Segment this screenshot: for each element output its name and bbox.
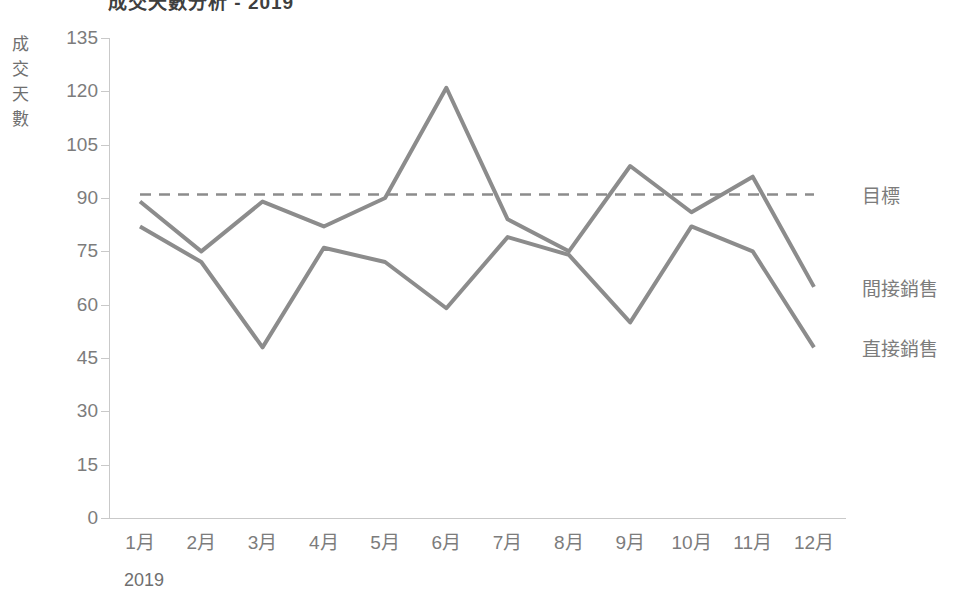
series-label-間接銷售: 間接銷售 <box>862 273 938 300</box>
series-line-直接銷售 <box>140 226 814 347</box>
series-label-直接銷售: 直接銷售 <box>862 334 938 361</box>
series-line-間接銷售 <box>140 88 814 287</box>
plot-area <box>0 0 956 612</box>
series-label-目標: 目標 <box>862 181 900 208</box>
chart-container: 成交天數分析 - 2019 成 交 天 數 015304560759010512… <box>0 0 956 612</box>
